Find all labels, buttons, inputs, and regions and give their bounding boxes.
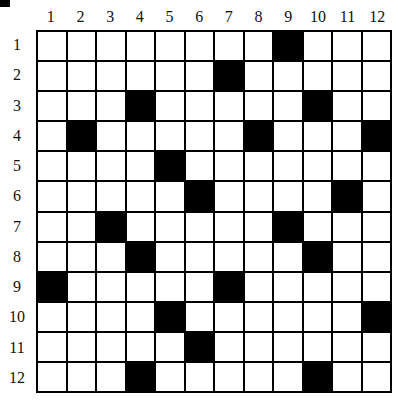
white-cell[interactable] xyxy=(127,273,155,301)
white-cell[interactable] xyxy=(38,182,66,210)
white-cell[interactable] xyxy=(38,32,66,60)
white-cell[interactable] xyxy=(186,62,214,90)
white-cell[interactable] xyxy=(274,363,302,391)
white-cell[interactable] xyxy=(215,363,243,391)
white-cell[interactable] xyxy=(363,182,391,210)
white-cell[interactable] xyxy=(97,122,125,150)
white-cell[interactable] xyxy=(156,363,184,391)
white-cell[interactable] xyxy=(333,303,361,331)
white-cell[interactable] xyxy=(156,213,184,241)
white-cell[interactable] xyxy=(127,122,155,150)
white-cell[interactable] xyxy=(127,152,155,180)
white-cell[interactable] xyxy=(304,152,332,180)
white-cell[interactable] xyxy=(333,213,361,241)
white-cell[interactable] xyxy=(97,363,125,391)
black-cell[interactable] xyxy=(245,122,273,150)
white-cell[interactable] xyxy=(156,62,184,90)
black-cell[interactable] xyxy=(333,182,361,210)
white-cell[interactable] xyxy=(68,152,96,180)
white-cell[interactable] xyxy=(333,62,361,90)
white-cell[interactable] xyxy=(215,32,243,60)
white-cell[interactable] xyxy=(156,243,184,271)
white-cell[interactable] xyxy=(215,122,243,150)
white-cell[interactable] xyxy=(245,213,273,241)
white-cell[interactable] xyxy=(363,363,391,391)
white-cell[interactable] xyxy=(97,152,125,180)
black-cell[interactable] xyxy=(156,152,184,180)
white-cell[interactable] xyxy=(333,92,361,120)
white-cell[interactable] xyxy=(38,303,66,331)
white-cell[interactable] xyxy=(127,213,155,241)
black-cell[interactable] xyxy=(215,62,243,90)
white-cell[interactable] xyxy=(38,122,66,150)
white-cell[interactable] xyxy=(97,62,125,90)
white-cell[interactable] xyxy=(38,213,66,241)
white-cell[interactable] xyxy=(186,213,214,241)
white-cell[interactable] xyxy=(68,273,96,301)
white-cell[interactable] xyxy=(68,62,96,90)
white-cell[interactable] xyxy=(304,273,332,301)
white-cell[interactable] xyxy=(186,243,214,271)
white-cell[interactable] xyxy=(333,363,361,391)
white-cell[interactable] xyxy=(186,122,214,150)
black-cell[interactable] xyxy=(363,122,391,150)
white-cell[interactable] xyxy=(245,363,273,391)
white-cell[interactable] xyxy=(333,333,361,361)
white-cell[interactable] xyxy=(68,32,96,60)
white-cell[interactable] xyxy=(186,363,214,391)
black-cell[interactable] xyxy=(127,243,155,271)
white-cell[interactable] xyxy=(304,303,332,331)
black-cell[interactable] xyxy=(186,333,214,361)
white-cell[interactable] xyxy=(363,92,391,120)
white-cell[interactable] xyxy=(215,92,243,120)
white-cell[interactable] xyxy=(215,243,243,271)
black-cell[interactable] xyxy=(156,303,184,331)
white-cell[interactable] xyxy=(245,62,273,90)
white-cell[interactable] xyxy=(304,333,332,361)
white-cell[interactable] xyxy=(245,182,273,210)
white-cell[interactable] xyxy=(274,333,302,361)
white-cell[interactable] xyxy=(274,182,302,210)
white-cell[interactable] xyxy=(215,303,243,331)
white-cell[interactable] xyxy=(274,122,302,150)
white-cell[interactable] xyxy=(97,303,125,331)
black-cell[interactable] xyxy=(127,92,155,120)
black-cell[interactable] xyxy=(304,243,332,271)
white-cell[interactable] xyxy=(363,273,391,301)
white-cell[interactable] xyxy=(186,92,214,120)
white-cell[interactable] xyxy=(363,243,391,271)
white-cell[interactable] xyxy=(363,333,391,361)
white-cell[interactable] xyxy=(186,152,214,180)
black-cell[interactable] xyxy=(97,213,125,241)
white-cell[interactable] xyxy=(274,152,302,180)
white-cell[interactable] xyxy=(156,122,184,150)
white-cell[interactable] xyxy=(333,152,361,180)
white-cell[interactable] xyxy=(97,243,125,271)
white-cell[interactable] xyxy=(245,92,273,120)
white-cell[interactable] xyxy=(304,62,332,90)
white-cell[interactable] xyxy=(215,152,243,180)
white-cell[interactable] xyxy=(68,333,96,361)
white-cell[interactable] xyxy=(274,273,302,301)
white-cell[interactable] xyxy=(245,303,273,331)
white-cell[interactable] xyxy=(68,243,96,271)
white-cell[interactable] xyxy=(363,152,391,180)
black-cell[interactable] xyxy=(68,122,96,150)
white-cell[interactable] xyxy=(274,62,302,90)
white-cell[interactable] xyxy=(156,273,184,301)
white-cell[interactable] xyxy=(333,243,361,271)
white-cell[interactable] xyxy=(215,182,243,210)
white-cell[interactable] xyxy=(68,363,96,391)
white-cell[interactable] xyxy=(274,92,302,120)
white-cell[interactable] xyxy=(97,182,125,210)
white-cell[interactable] xyxy=(68,182,96,210)
white-cell[interactable] xyxy=(333,273,361,301)
white-cell[interactable] xyxy=(156,182,184,210)
white-cell[interactable] xyxy=(186,32,214,60)
white-cell[interactable] xyxy=(186,273,214,301)
white-cell[interactable] xyxy=(333,122,361,150)
white-cell[interactable] xyxy=(68,303,96,331)
black-cell[interactable] xyxy=(215,273,243,301)
black-cell[interactable] xyxy=(127,363,155,391)
white-cell[interactable] xyxy=(215,333,243,361)
